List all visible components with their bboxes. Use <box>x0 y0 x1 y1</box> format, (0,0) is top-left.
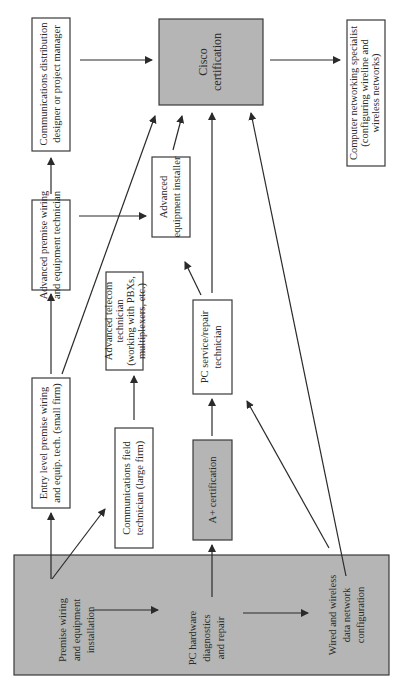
node-pc-hw-line-1: PC hardware <box>187 610 198 665</box>
node-premise: Premise wiring and equipment installatio… <box>57 597 96 662</box>
node-adv-premise-line-2: and equipment technician <box>51 190 62 299</box>
node-a-plus: A+ certification <box>207 456 218 524</box>
node-a-plus-line-1: A+ certification <box>207 456 218 524</box>
node-pc-service-line-1: PC service/repair <box>199 310 210 383</box>
node-pc-hw-line-2: diagnostics <box>201 614 212 661</box>
node-premise-line-1: Premise wiring <box>57 597 68 662</box>
node-premise-line-3: installation <box>85 606 96 653</box>
node-comm-field-line-1: Communications field <box>121 440 132 534</box>
node-wired-line-1: Wired and wireless <box>327 575 338 656</box>
node-cisco-line-1: Cisco <box>196 48 210 75</box>
node-adv-telecom-line-4: multiplexers, etc.) <box>136 282 148 359</box>
node-cisco-line-2: certification <box>210 33 224 91</box>
node-net-specialist-line-1: Computer networking specialist <box>348 26 359 160</box>
node-net-specialist-line-3: wireless networks) <box>370 53 382 133</box>
node-entry-line-1: Entry level premise wiring <box>38 386 49 499</box>
edge-wired-pc-service <box>247 401 329 548</box>
node-adv-telecom: Advanced telecom technician (working wit… <box>103 276 148 366</box>
node-adv-premise-line-1: Advanced premise wiring <box>38 190 49 299</box>
edge-adv-equip-cisco <box>173 116 182 150</box>
node-entry-line-2: and equip. tech. (small firm) <box>51 383 63 503</box>
node-wired-line-2: data network <box>341 587 352 642</box>
node-comm-field-line-2: technician (large firm) <box>134 440 146 535</box>
node-adv-telecom-line-2: technician <box>114 299 125 343</box>
node-pc-hw-line-3: and repair <box>215 616 226 659</box>
node-premise-line-2: and equipment <box>71 599 82 661</box>
career-path-diagram: Premise wiring and equipment installatio… <box>0 0 399 692</box>
node-pc-hw: PC hardware diagnostics and repair <box>187 610 226 665</box>
node-comm-field: Communications field technician (large f… <box>121 440 146 535</box>
node-wired-line-3: configuration <box>355 586 366 643</box>
node-adv-equip-line-2: equipment installer <box>171 156 182 237</box>
node-entry: Entry level premise wiring and equip. te… <box>38 383 63 503</box>
edge-pc-service-adv-equip <box>185 262 201 295</box>
node-comm-dist-line-2: designer or project manager <box>51 25 62 143</box>
node-adv-equip-line-1: Advanced <box>158 175 169 218</box>
node-adv-telecom-line-1: Advanced telecom <box>103 282 114 360</box>
node-comm-dist-line-1: Communications distribution <box>38 22 49 146</box>
edge-wired-cisco <box>251 113 346 576</box>
node-pc-service-line-2: technician <box>212 325 223 369</box>
